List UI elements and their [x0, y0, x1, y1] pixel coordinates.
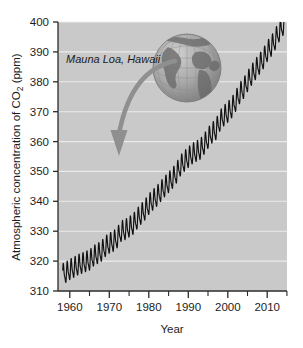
y-tick-label-360: 360: [30, 136, 49, 148]
x-tick-label-1990: 1990: [176, 301, 202, 313]
x-tick-label-1980: 1980: [136, 301, 162, 313]
y-tick-label-390: 390: [30, 46, 49, 58]
y-tick-label-320: 320: [30, 255, 49, 267]
x-tick-label-2010: 2010: [254, 301, 280, 313]
location-annotation-label: Mauna Loa, Hawaii: [66, 53, 161, 65]
chart-svg: Mauna Loa, Hawaii 310 320 330 340 3: [0, 0, 303, 348]
x-tick-label-1970: 1970: [97, 301, 123, 313]
y-tick-label-380: 380: [30, 76, 49, 88]
y-tick-label-370: 370: [30, 106, 49, 118]
x-axis-title: Year: [160, 323, 183, 335]
y-tick-label-340: 340: [30, 195, 49, 207]
y-tick-label-400: 400: [30, 16, 49, 28]
y-axis-title-suffix: (ppm): [10, 53, 22, 86]
x-tick-label-2000: 2000: [215, 301, 241, 313]
co2-chart-figure: Mauna Loa, Hawaii 310 320 330 340 3: [0, 0, 303, 348]
y-tick-label-330: 330: [30, 225, 49, 237]
x-tick-label-1960: 1960: [57, 301, 83, 313]
y-tick-label-310: 310: [30, 285, 49, 297]
y-axis-title-prefix: Atmospheric concentration of CO: [10, 91, 22, 260]
y-tick-label-350: 350: [30, 165, 49, 177]
